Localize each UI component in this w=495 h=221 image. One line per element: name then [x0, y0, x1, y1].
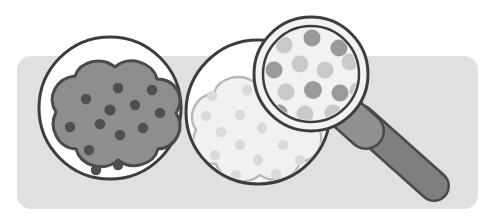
chocolate-chip-pale-13 [271, 169, 281, 179]
chocolate-chip-pale-6 [253, 155, 263, 165]
chocolate-chip-pale-15 [207, 91, 217, 101]
magnified-chip-10 [332, 85, 349, 102]
chocolate-chip-pale-1 [216, 127, 226, 137]
chocolate-chip-dark-1 [81, 94, 91, 104]
magnified-chip-5 [292, 56, 309, 73]
chocolate-chip-dark-12 [147, 85, 157, 95]
chocolate-chip-dark-9 [138, 123, 148, 133]
chocolate-chip-pale-10 [242, 85, 252, 95]
magnified-chip-2 [304, 30, 321, 47]
plate-left-group [39, 37, 181, 179]
magnified-chip-4 [266, 62, 283, 79]
chocolate-chip-pale-5 [257, 123, 267, 133]
chocolate-chip-pale-7 [278, 140, 288, 150]
chocolate-chip-pale-12 [201, 111, 211, 121]
chocolate-chip-dark-4 [84, 145, 94, 155]
chocolate-chip-dark-11 [91, 165, 101, 175]
cookie-inspection-illustration: Cookie inspection illustration Two choco… [0, 0, 495, 221]
chocolate-chip-dark-8 [130, 100, 140, 110]
magnified-chip-6 [317, 62, 334, 79]
chocolate-chip-dark-6 [115, 130, 125, 140]
chocolate-chip-pale-2 [235, 110, 245, 120]
chocolate-chip-pale-3 [210, 150, 220, 160]
chocolate-chip-pale-4 [235, 140, 245, 150]
chocolate-chip-dark-3 [65, 122, 75, 132]
chocolate-chip-dark-2 [95, 119, 105, 129]
scene-canvas [0, 0, 495, 221]
chocolate-chip-dark-10 [113, 160, 123, 170]
chocolate-chip-dark-5 [104, 104, 115, 115]
chocolate-chip-dark-13 [155, 108, 165, 118]
chocolate-chip-dark-7 [113, 83, 123, 93]
magnified-chip-9 [304, 81, 322, 99]
magnified-chip-8 [278, 84, 295, 101]
chocolate-chip-pale-14 [295, 155, 305, 165]
